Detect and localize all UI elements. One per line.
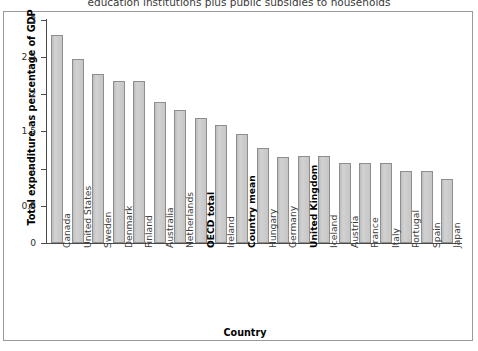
category-label: Hungary (267, 209, 278, 248)
category-label: Netherlands (184, 192, 195, 248)
category-label: Australia (164, 207, 175, 248)
category-label: United Kingdom (308, 165, 319, 248)
bar-series (0, 0, 478, 351)
category-label: United States (82, 186, 93, 248)
bar (51, 35, 63, 243)
category-label: Iceland (328, 215, 339, 248)
category-label: Ireland (225, 216, 236, 248)
category-label: Germany (287, 206, 298, 248)
chart-figure: education institutions plus public subsi… (0, 0, 478, 351)
category-label: Portugal (410, 210, 421, 248)
category-label: Spain (431, 222, 442, 248)
category-label: Sweden (102, 212, 113, 248)
category-label: Country mean (246, 175, 257, 248)
category-label: Finland (143, 215, 154, 248)
category-label: Denmark (123, 206, 134, 248)
category-label: OECD total (205, 192, 216, 248)
category-label: Canada (61, 213, 72, 248)
category-label: Italy (390, 228, 401, 248)
x-axis-title: Country (195, 327, 295, 338)
category-label: France (369, 217, 380, 248)
category-label: Austria (349, 216, 360, 248)
category-label: Japan (451, 222, 462, 248)
